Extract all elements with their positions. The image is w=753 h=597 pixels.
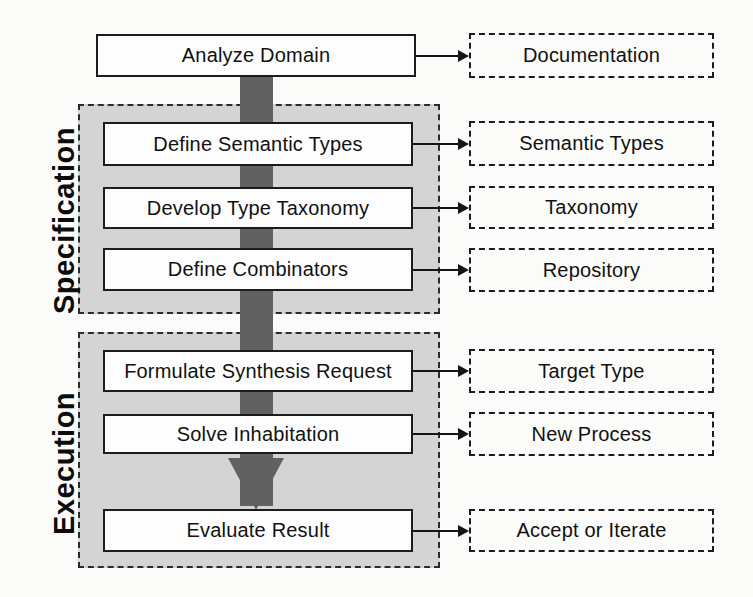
artifact-label: Taxonomy xyxy=(545,196,638,219)
artifact-box-taxonomy[interactable]: Taxonomy xyxy=(469,186,714,229)
activity-box-solve-inhabitation[interactable]: Solve Inhabitation xyxy=(103,414,413,454)
activity-label: Solve Inhabitation xyxy=(177,423,340,446)
artifact-label: Semantic Types xyxy=(519,132,664,155)
activity-box-develop-type-taxonomy[interactable]: Develop Type Taxonomy xyxy=(103,187,413,229)
activity-label: Develop Type Taxonomy xyxy=(147,197,369,220)
connector-arrow-semantic-types xyxy=(413,135,469,153)
flow-arrow-segment-1 xyxy=(240,72,273,124)
activity-label: Analyze Domain xyxy=(182,44,330,67)
artifact-box-repository[interactable]: Repository xyxy=(469,248,714,292)
workflow-diagram: Specification Execution Analyze Domain D… xyxy=(0,0,753,597)
activity-label: Formulate Synthesis Request xyxy=(124,360,392,383)
artifact-label: Documentation xyxy=(523,44,660,67)
activity-box-analyze-domain[interactable]: Analyze Domain xyxy=(96,34,416,77)
artifact-box-accept-or-iterate[interactable]: Accept or Iterate xyxy=(469,509,714,552)
artifact-label: Repository xyxy=(543,259,641,282)
connector-arrow-accept-or-iterate xyxy=(413,522,469,540)
artifact-label: Target Type xyxy=(538,360,644,383)
activity-box-evaluate-result[interactable]: Evaluate Result xyxy=(103,509,413,552)
phase-label-specification: Specification xyxy=(48,127,81,314)
artifact-box-semantic-types[interactable]: Semantic Types xyxy=(469,121,714,166)
activity-box-formulate-synthesis-request[interactable]: Formulate Synthesis Request xyxy=(103,350,413,392)
activity-box-define-combinators[interactable]: Define Combinators xyxy=(103,248,413,291)
activity-label: Define Semantic Types xyxy=(153,133,363,156)
connector-arrow-taxonomy xyxy=(413,199,469,217)
artifact-box-new-process[interactable]: New Process xyxy=(469,412,714,456)
phase-label-execution: Execution xyxy=(48,392,81,535)
flow-arrow-head xyxy=(228,458,284,510)
flow-arrow-segment-4 xyxy=(240,289,273,353)
artifact-box-documentation[interactable]: Documentation xyxy=(469,33,714,78)
artifact-box-target-type[interactable]: Target Type xyxy=(469,349,714,393)
connector-arrow-documentation xyxy=(416,47,469,65)
activity-label: Evaluate Result xyxy=(186,519,329,542)
connector-arrow-target-type xyxy=(413,362,469,380)
artifact-label: New Process xyxy=(531,423,651,446)
artifact-label: Accept or Iterate xyxy=(516,519,666,542)
connector-arrow-repository xyxy=(413,261,469,279)
activity-label: Define Combinators xyxy=(168,258,348,281)
flow-arrow-segment-5 xyxy=(240,390,273,417)
activity-box-define-semantic-types[interactable]: Define Semantic Types xyxy=(103,122,413,166)
connector-arrow-new-process xyxy=(413,425,469,443)
